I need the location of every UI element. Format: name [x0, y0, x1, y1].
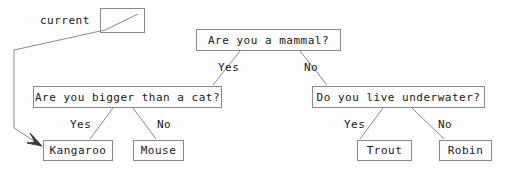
- edge-label-left-yes: Yes: [70, 119, 91, 130]
- edge-label-right-yes: Yes: [344, 119, 365, 130]
- node-leaf-robin[interactable]: Robin: [439, 140, 492, 161]
- node-left-question[interactable]: Are you bigger than a cat?: [33, 86, 222, 108]
- node-leaf-kangaroo[interactable]: Kangaroo: [43, 140, 113, 161]
- edge-label-root-no: No: [304, 62, 318, 73]
- pointer-arrowhead: [27, 133, 42, 146]
- edge-label-left-no: No: [157, 119, 171, 130]
- node-leaf-trout[interactable]: Trout: [357, 140, 412, 161]
- edge-label-right-no: No: [438, 119, 452, 130]
- decision-tree-diagram: current Are you a mammal? Yes No Are you…: [0, 0, 505, 177]
- node-root-question[interactable]: Are you a mammal?: [196, 29, 341, 51]
- current-pointer-label: current: [40, 15, 90, 26]
- edge-left-no: [133, 108, 156, 139]
- edge-label-root-yes: Yes: [218, 62, 239, 73]
- current-pointer-box[interactable]: [100, 8, 145, 33]
- node-right-question[interactable]: Do you live underwater?: [312, 86, 485, 108]
- node-leaf-mouse[interactable]: Mouse: [133, 140, 184, 161]
- edge-left-yes: [90, 108, 113, 139]
